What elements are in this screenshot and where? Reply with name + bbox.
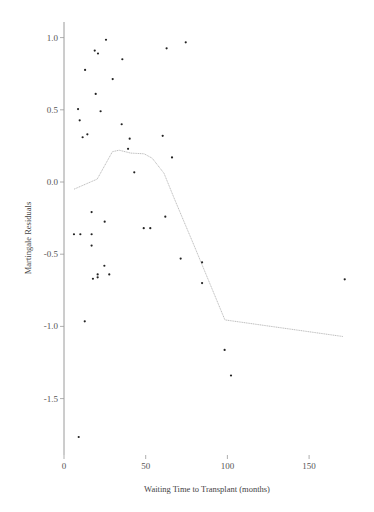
- data-point: [91, 211, 93, 213]
- x-tick-label: 100: [221, 461, 235, 471]
- scatter-plot: 1.00.50.0-0.5-1.0-1.5 050100150 Martinga…: [0, 0, 374, 512]
- data-point: [185, 41, 187, 43]
- smoothed-fit-line: [74, 150, 343, 336]
- data-point: [104, 221, 106, 223]
- data-point: [143, 227, 145, 229]
- x-axis-ticks: 050100150: [62, 455, 317, 471]
- data-point: [84, 320, 86, 322]
- x-axis-label: Waiting Time to Transplant (months): [144, 484, 270, 494]
- data-point: [82, 136, 84, 138]
- data-point: [180, 257, 182, 259]
- data-point: [164, 216, 166, 218]
- y-tick-label: 0.0: [47, 177, 59, 187]
- data-point: [77, 108, 79, 110]
- x-tick-label: 0: [62, 461, 67, 471]
- data-point: [171, 156, 173, 158]
- data-point: [166, 47, 168, 49]
- data-point: [86, 133, 88, 135]
- data-point: [97, 273, 99, 275]
- data-point: [94, 49, 96, 51]
- data-point: [224, 349, 226, 351]
- data-point: [129, 138, 131, 140]
- data-point: [133, 171, 135, 173]
- x-tick-label: 150: [302, 461, 316, 471]
- y-tick-label: -1.0: [44, 321, 59, 331]
- data-point: [79, 119, 81, 121]
- data-point: [162, 135, 164, 137]
- data-point: [78, 436, 80, 438]
- data-point: [91, 233, 93, 235]
- data-point: [344, 278, 346, 280]
- y-tick-label: 1.0: [47, 33, 59, 43]
- data-point: [95, 93, 97, 95]
- data-point: [97, 276, 99, 278]
- data-point: [84, 69, 86, 71]
- data-point: [79, 233, 81, 235]
- data-point: [121, 58, 123, 60]
- data-point: [121, 123, 123, 125]
- data-point: [230, 374, 232, 376]
- data-point: [127, 148, 129, 150]
- x-tick-label: 50: [141, 461, 151, 471]
- data-point: [149, 227, 151, 229]
- data-point: [100, 110, 102, 112]
- residual-points: [73, 39, 346, 438]
- y-axis-label: Martingale Residuals: [23, 202, 33, 274]
- y-tick-label: -1.5: [44, 394, 59, 404]
- data-point: [103, 265, 105, 267]
- data-point: [91, 244, 93, 246]
- y-axis-ticks: 1.00.50.0-0.5-1.0-1.5: [44, 33, 64, 404]
- data-point: [201, 282, 203, 284]
- data-point: [108, 273, 110, 275]
- data-point: [73, 233, 75, 235]
- data-point: [105, 39, 107, 41]
- data-point: [112, 78, 114, 80]
- data-point: [92, 278, 94, 280]
- y-tick-label: 0.5: [47, 105, 59, 115]
- y-tick-label: -0.5: [44, 249, 59, 259]
- data-point: [201, 261, 203, 263]
- data-point: [97, 52, 99, 54]
